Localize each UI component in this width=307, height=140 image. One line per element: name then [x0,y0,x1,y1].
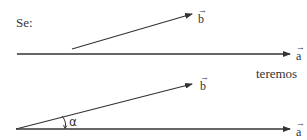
top-vector-b-line [72,14,192,49]
vector-arrow-icon: → [296,43,305,52]
bottom-vector-b-label: → b [200,80,206,92]
angle-alpha-label: α [69,116,77,128]
vector-arrow-icon: → [198,6,207,15]
result-label: teremos [256,67,297,80]
top-vector-a-label: → a [296,50,301,62]
top-vector-b-label: → b [198,13,204,25]
bottom-vector-b-line [16,84,192,129]
vector-arrow-icon: → [296,119,305,128]
bottom-vector-a-label: → a [296,126,301,138]
vector-arrow-icon: → [200,73,209,82]
intro-label: Se: [16,16,33,29]
